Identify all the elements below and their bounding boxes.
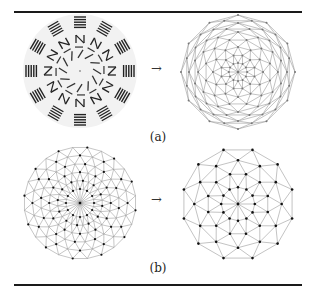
- bottom-rule: [14, 284, 302, 286]
- arrow-b-icon: →: [151, 193, 162, 207]
- caption-a: (a): [138, 130, 178, 144]
- caption-b: (b): [138, 261, 178, 275]
- arrow-a-icon: →: [151, 62, 162, 76]
- panel-b-sparse-mesh: [0, 0, 316, 296]
